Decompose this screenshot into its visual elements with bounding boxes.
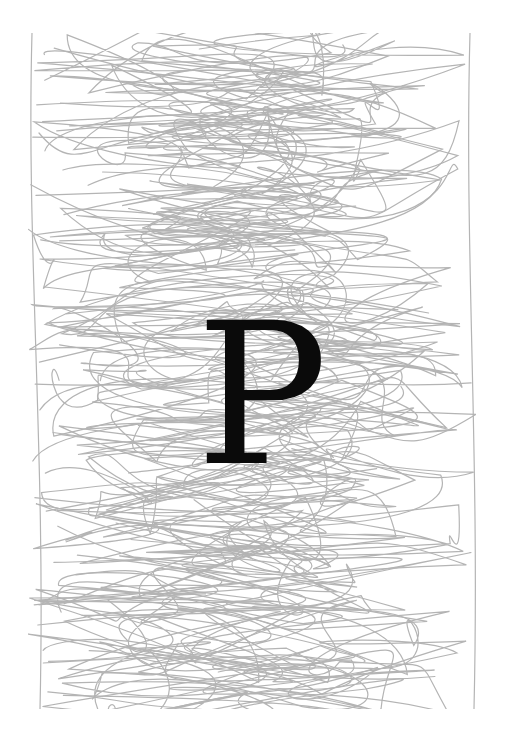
letter-p: P [196, 300, 306, 490]
